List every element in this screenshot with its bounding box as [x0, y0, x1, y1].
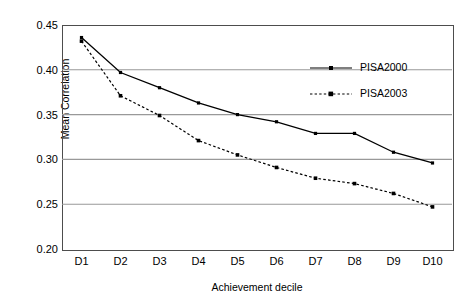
data-point-marker [275, 166, 279, 170]
y-axis-tick-label: 0.45 [12, 20, 58, 31]
y-axis-tick-label: 0.25 [12, 199, 58, 210]
x-axis-tick-label: D1 [62, 255, 102, 267]
data-point-marker [236, 153, 240, 157]
x-axis-tick-label: D9 [374, 255, 414, 267]
legend-item-pisa2003[interactable]: PISA2003 [308, 86, 426, 102]
data-point-marker [119, 71, 122, 74]
x-axis-tick-label: D10 [413, 255, 453, 267]
data-point-marker [392, 151, 395, 154]
x-axis-tick-label: D6 [257, 255, 297, 267]
x-axis-tick-labels: D1D2D3D4D5D6D7D8D9D10 [62, 255, 452, 271]
data-point-marker [314, 176, 318, 180]
data-point-marker [80, 39, 84, 43]
data-point-marker [80, 36, 83, 39]
y-axis-tick-label: 0.35 [12, 110, 58, 121]
x-axis-tick-label: D4 [179, 255, 219, 267]
data-point-marker [314, 132, 317, 135]
data-point-marker [353, 182, 357, 186]
x-axis-tick-label: D3 [140, 255, 180, 267]
data-point-marker [197, 139, 201, 143]
x-axis-tick-label: D8 [335, 255, 375, 267]
data-point-marker [431, 205, 435, 209]
data-point-marker [353, 132, 356, 135]
x-axis-title: Achievement decile [62, 281, 452, 293]
chart-figure: Mean Correlation 0.450.400.350.300.250.2… [0, 0, 469, 305]
y-axis-tick-label: 0.30 [12, 154, 58, 165]
legend-label-pisa2003: PISA2003 [360, 87, 407, 99]
data-point-marker [158, 114, 162, 118]
data-point-marker [158, 86, 161, 89]
y-axis-tick-label: 0.40 [12, 65, 58, 76]
legend-label-pisa2000: PISA2000 [360, 61, 407, 73]
chart-plot-svg [62, 25, 452, 249]
data-point-marker [119, 94, 123, 98]
y-axis-tick-labels: 0.450.400.350.300.250.20 [10, 0, 58, 305]
data-point-marker [431, 161, 434, 164]
legend-swatch-solid-line [308, 60, 354, 76]
x-axis-tick-label: D2 [101, 255, 141, 267]
data-point-marker [236, 113, 239, 116]
legend-item-pisa2000[interactable]: PISA2000 [308, 60, 426, 76]
x-axis-tick-label: D7 [296, 255, 336, 267]
data-point-marker [275, 120, 278, 123]
data-point-marker [392, 192, 396, 196]
x-axis-tick-label: D5 [218, 255, 258, 267]
y-axis-tick-label: 0.20 [12, 244, 58, 255]
data-point-marker [197, 101, 200, 104]
chart-legend: PISA2000 PISA2003 [308, 60, 426, 106]
legend-swatch-dashed-line [308, 86, 354, 102]
